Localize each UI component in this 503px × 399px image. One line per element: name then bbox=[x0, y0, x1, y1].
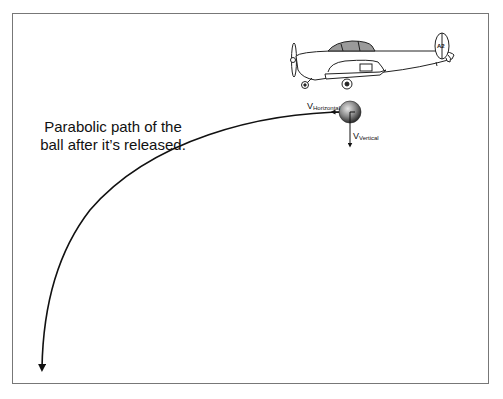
tail-number: A2 bbox=[437, 43, 445, 49]
path-caption: Parabolic path of the ball after it’s re… bbox=[28, 118, 198, 154]
diagram-canvas bbox=[0, 0, 503, 399]
v-vertical-label: VVertical bbox=[353, 131, 379, 143]
airplane-icon bbox=[291, 33, 455, 89]
v-horizontal-label: VHorizontal bbox=[307, 101, 340, 113]
